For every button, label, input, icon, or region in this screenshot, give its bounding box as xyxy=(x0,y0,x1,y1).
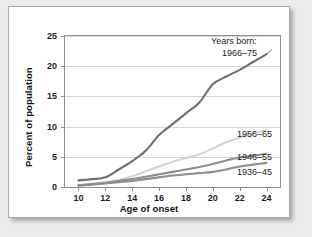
series-label: 1946–55 xyxy=(237,152,272,162)
chart-screenshot: Percent of population 0510152025 1012141… xyxy=(0,0,312,237)
x-tick-label: 12 xyxy=(100,193,110,203)
x-tick-mark xyxy=(78,187,79,191)
y-tick-label: 10 xyxy=(39,122,57,132)
x-tick-label: 14 xyxy=(127,193,137,203)
chart-card: Percent of population 0510152025 1012141… xyxy=(8,6,290,218)
series-label: 1956–65 xyxy=(237,129,272,139)
x-axis-title: Age of onset xyxy=(9,203,289,214)
x-tick-mark xyxy=(105,187,106,191)
x-tick-label: 10 xyxy=(73,193,83,203)
x-tick-mark xyxy=(186,187,187,191)
x-tick-mark xyxy=(240,187,241,191)
y-tick-label: 25 xyxy=(39,31,57,41)
y-tick-label: 20 xyxy=(39,61,57,71)
x-tick-label: 22 xyxy=(235,193,245,203)
x-tick-mark xyxy=(159,187,160,191)
x-tick-mark xyxy=(267,187,268,191)
x-tick-label: 18 xyxy=(181,193,191,203)
series-label: 1966–75 xyxy=(222,48,257,58)
legend-heading: Years born: xyxy=(211,36,257,46)
plot-inner xyxy=(65,36,280,187)
x-tick-label: 20 xyxy=(208,193,218,203)
x-tick-mark xyxy=(132,187,133,191)
series-label: 1936–45 xyxy=(237,167,272,177)
y-tick-label: 5 xyxy=(39,152,57,162)
x-tick-mark xyxy=(213,187,214,191)
x-tick-label: 24 xyxy=(262,193,272,203)
y-tick-label: 15 xyxy=(39,91,57,101)
y-axis-title: Percent of population xyxy=(23,67,34,167)
x-tick-label: 16 xyxy=(154,193,164,203)
y-tick-label: 0 xyxy=(39,182,57,192)
